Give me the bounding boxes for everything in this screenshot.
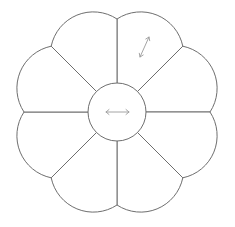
radial-menu: [0, 0, 235, 227]
